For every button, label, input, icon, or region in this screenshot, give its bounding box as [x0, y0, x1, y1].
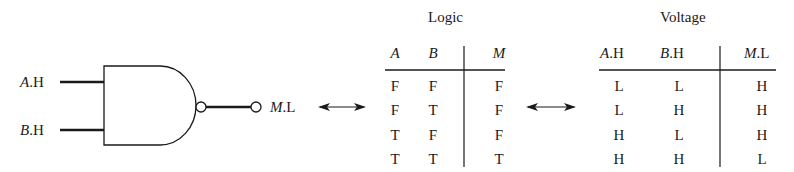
- logic-cell: T: [385, 152, 405, 167]
- logic-cell: T: [385, 128, 405, 143]
- voltage-header-b: B.H: [660, 46, 684, 61]
- logic-cell: T: [489, 152, 509, 167]
- voltage-cell: L: [669, 128, 689, 143]
- logic-cell: T: [423, 103, 443, 118]
- double-arrow-icon: [526, 103, 576, 111]
- logic-header-b: B: [423, 46, 443, 61]
- output-terminal-bubble: [251, 102, 261, 112]
- voltage-cell: H: [609, 152, 629, 167]
- voltage-cell: H: [609, 128, 629, 143]
- logic-cell: F: [489, 79, 509, 94]
- voltage-cell: L: [669, 79, 689, 94]
- logic-cell: F: [385, 103, 405, 118]
- nand-gate-body: [104, 66, 196, 145]
- logic-cell: F: [423, 128, 443, 143]
- logic-cell: F: [489, 103, 509, 118]
- logic-header-m: M: [489, 46, 509, 61]
- input-label-b: B.H: [20, 123, 44, 138]
- logic-table-title: Logic: [428, 10, 463, 25]
- input-label-a: A.H: [20, 75, 44, 90]
- voltage-header-a: A.H: [600, 46, 624, 61]
- logic-cell: F: [423, 79, 443, 94]
- voltage-table-title: Voltage: [660, 10, 706, 25]
- output-label-m: M.L: [270, 100, 295, 115]
- voltage-cell: H: [669, 152, 689, 167]
- voltage-cell: H: [752, 103, 772, 118]
- logic-cell: T: [423, 152, 443, 167]
- voltage-cell: L: [609, 103, 629, 118]
- voltage-cell: H: [752, 79, 772, 94]
- logic-header-a: A: [385, 46, 405, 61]
- voltage-cell: H: [669, 103, 689, 118]
- logic-cell: F: [489, 128, 509, 143]
- logic-cell: F: [385, 79, 405, 94]
- voltage-header-m: M.L: [744, 46, 769, 61]
- voltage-cell: L: [752, 152, 772, 167]
- voltage-cell: H: [752, 128, 772, 143]
- inversion-bubble: [196, 102, 206, 112]
- double-arrow-icon: [318, 103, 366, 111]
- voltage-cell: L: [609, 79, 629, 94]
